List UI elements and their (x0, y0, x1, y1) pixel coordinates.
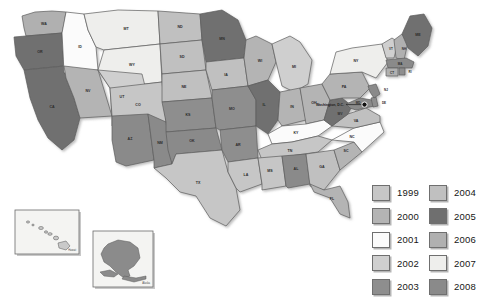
legend-item-2001[interactable]: 2001 (372, 228, 428, 252)
legend-swatch-2003 (372, 279, 390, 295)
state-MT[interactable] (84, 10, 160, 50)
state-MN[interactable] (200, 10, 246, 62)
legend-column-right: 2004 2005 2006 2007 2008 (429, 181, 485, 299)
state-MD[interactable] (346, 98, 374, 110)
state-FL[interactable] (310, 184, 350, 218)
state-GA[interactable] (306, 150, 340, 190)
legend-item-2005[interactable]: 2005 (429, 205, 485, 229)
legend-swatch-2005 (429, 208, 447, 224)
svg-text:NJ: NJ (384, 88, 388, 92)
legend-label-2005: 2005 (454, 212, 476, 222)
legend-swatch-2004 (429, 185, 447, 201)
legend-swatch-2007 (429, 255, 447, 271)
legend-item-2000[interactable]: 2000 (372, 205, 428, 229)
washington-dc-marker-dot (362, 102, 367, 107)
state-MA[interactable] (386, 58, 414, 68)
state-MS[interactable] (258, 156, 286, 190)
legend-swatch-2000 (372, 208, 390, 224)
state-WI[interactable] (244, 36, 276, 86)
us-choropleth-figure: WA OR CA ID NV MT WY UT AZ NM CO ND SD N… (0, 0, 486, 305)
state-KS[interactable] (162, 98, 216, 132)
legend-swatch-2001 (372, 232, 390, 248)
state-OR[interactable] (14, 33, 64, 70)
legend-item-2002[interactable]: 2002 (372, 252, 428, 276)
legend-swatch-2002 (372, 255, 390, 271)
legend-label-2007: 2007 (454, 259, 476, 269)
legend-swatch-2008 (429, 279, 447, 295)
state-CT[interactable] (386, 68, 398, 76)
alaska-inset: Alaska (93, 231, 155, 289)
state-NJ[interactable] (368, 84, 380, 98)
legend-item-2007[interactable]: 2007 (429, 252, 485, 276)
legend-column-left: 1999 2000 2001 2002 2003 (372, 181, 428, 299)
legend-label-2006: 2006 (454, 235, 476, 245)
state-WA[interactable] (22, 11, 66, 36)
legend-swatch-2006 (429, 232, 447, 248)
legend-label-2008: 2008 (454, 282, 476, 292)
state-AR[interactable] (220, 126, 258, 162)
legend-label-2001: 2001 (397, 235, 419, 245)
year-legend: 1999 2000 2001 2002 2003 2004 (372, 181, 484, 299)
svg-text:DE: DE (382, 101, 386, 105)
hawaii-inset: Hawaii (15, 210, 81, 256)
state-PA[interactable] (322, 72, 370, 100)
state-SD[interactable] (160, 40, 206, 74)
legend-label-2002: 2002 (397, 259, 419, 269)
legend-label-2003: 2003 (397, 282, 419, 292)
svg-text:Washington, D.C.: Washington, D.C. (316, 103, 344, 107)
state-IA[interactable] (206, 58, 248, 90)
legend-label-2000: 2000 (397, 212, 419, 222)
state-RI[interactable] (399, 68, 405, 75)
legend-item-2004[interactable]: 2004 (429, 181, 485, 205)
state-MI[interactable] (272, 36, 312, 92)
legend-item-1999[interactable]: 1999 (372, 181, 428, 205)
state-ND[interactable] (158, 11, 202, 44)
states-group (14, 10, 432, 226)
legend-swatch-1999 (372, 185, 390, 201)
legend-item-2006[interactable]: 2006 (429, 228, 485, 252)
legend-label-1999: 1999 (397, 188, 419, 198)
state-AZ[interactable] (112, 114, 154, 166)
state-NE[interactable] (162, 70, 212, 102)
state-MO[interactable] (212, 86, 256, 130)
svg-text:RI: RI (409, 70, 412, 74)
legend-item-2008[interactable]: 2008 (429, 275, 485, 299)
state-AL[interactable] (282, 154, 310, 188)
alaska-inset-caption: Alaska (142, 281, 150, 285)
hawaii-inset-caption: Hawaii (68, 248, 76, 252)
legend-item-2003[interactable]: 2003 (372, 275, 428, 299)
legend-label-2004: 2004 (454, 188, 476, 198)
